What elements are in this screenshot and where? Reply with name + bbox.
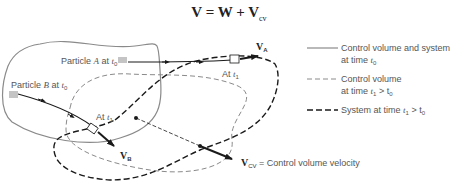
legend-item-system-t1: System at time t1 > t0 — [307, 105, 426, 116]
legend-text-3: System at time t1 > t0 — [341, 105, 426, 116]
velocity-b-label: VB — [120, 150, 132, 162]
velocity-a-label: VA — [256, 41, 268, 53]
cv-displacement-line — [136, 118, 200, 146]
legend: Control volume and system at time t0 Con… — [307, 43, 450, 116]
legend-text-2a: Control volume — [341, 74, 402, 84]
flow-diagram: Particle A at t0 Particle B at t0 At t1 … — [0, 0, 458, 189]
particle-b-box-t1 — [87, 123, 98, 134]
diagram-root: V = W + Vcv — [0, 0, 458, 189]
control-volume-t1-outline — [66, 74, 247, 172]
particle-a-pathline — [128, 60, 232, 62]
velocity-cv-label: VCV = Control volume velocity — [241, 157, 360, 169]
cv-point-t0 — [134, 116, 138, 120]
particle-b-pathline — [18, 94, 92, 126]
legend-text-2b: at time t1 > t0 — [341, 86, 393, 97]
legend-item-cv-system-t0: Control volume and system at time t0 — [307, 43, 450, 66]
legend-text-1b: at time t0 — [341, 55, 377, 66]
legend-text-1a: Control volume and system — [341, 43, 450, 53]
particle-a-at-t1-label: At t1 — [222, 69, 240, 80]
particle-a-label: Particle A at t0 — [61, 56, 118, 67]
velocity-b-arrow — [98, 132, 114, 146]
particle-b-marker-t0 — [9, 91, 18, 98]
particle-b-at-t1-label: At t1 — [96, 112, 114, 123]
particle-a-box-t1 — [230, 55, 239, 63]
velocity-cv-arrow — [200, 146, 232, 159]
particle-b-label: Particle B at t0 — [11, 80, 68, 91]
legend-item-cv-t1: Control volume at time t1 > t0 — [307, 74, 402, 97]
particle-a-marker-t0 — [118, 57, 127, 63]
